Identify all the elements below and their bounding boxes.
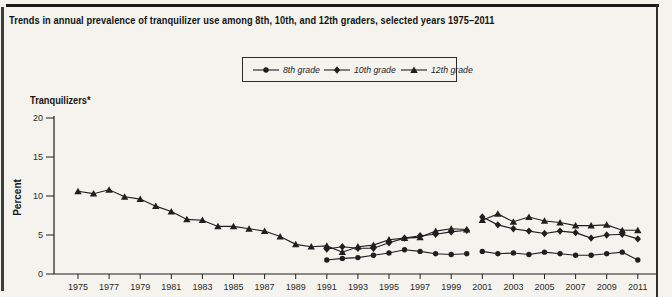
y-tick-label: 15 [33, 152, 43, 162]
page-border-top [6, 4, 659, 7]
series-12th-grade [74, 186, 641, 255]
y-tick-label: 10 [33, 191, 43, 201]
legend-item-8th-grade: 8th grade [252, 64, 323, 75]
legend-item-10th-grade: 10th grade [323, 64, 399, 75]
x-tick-label: 2011 [628, 282, 647, 292]
x-tick-label: 1977 [99, 282, 119, 292]
x-tick-label: 1987 [255, 282, 275, 292]
page-border-right [656, 5, 658, 297]
x-tick-label: 1997 [410, 282, 430, 292]
page-border-left [1, 7, 4, 291]
chart-title: Trends in annual prevalence of tranquili… [9, 14, 495, 26]
x-tick-label: 2003 [503, 282, 523, 292]
x-tick-label: 1991 [317, 282, 337, 292]
y-axis-title: Percent [12, 167, 23, 229]
x-tick-label: 1999 [441, 282, 461, 292]
line-chart: 0510152019751977197919811983198519871989… [0, 0, 672, 297]
x-tick-label: 1995 [379, 282, 399, 292]
x-tick-label: 1975 [68, 282, 88, 292]
x-tick-label: 1993 [348, 282, 368, 292]
x-tick-label: 2001 [472, 282, 492, 292]
x-tick-label: 1981 [161, 282, 181, 292]
y-tick-label: 0 [38, 269, 43, 279]
x-tick-label: 2007 [566, 282, 586, 292]
legend-label-12th-grade: 12th grade [431, 64, 473, 75]
y-tick-label: 20 [33, 113, 43, 123]
x-tick-label: 1985 [223, 282, 243, 292]
x-tick-label: 2005 [534, 282, 554, 292]
diamond-marker-icon [323, 65, 351, 75]
x-tick-label: 1983 [192, 282, 212, 292]
axes [54, 116, 656, 274]
y-tick-label: 5 [38, 230, 43, 240]
legend-item-12th-grade: 12th grade [400, 64, 476, 75]
triangle-marker-icon [400, 65, 428, 75]
x-tick-label: 2009 [597, 282, 617, 292]
x-tick-label: 1979 [130, 282, 150, 292]
circle-marker-icon [252, 65, 280, 75]
y-axis-ticks: 05101520 [33, 113, 54, 279]
legend-box: 8th grade 10th grade 12th grade [242, 57, 457, 82]
legend-label-8th-grade: 8th grade [283, 64, 320, 75]
legend-label-10th-grade: 10th grade [354, 64, 396, 75]
x-axis-ticks: 1975197719791981198319851987198919911993… [68, 274, 647, 292]
substance-label: Tranquilizers* [30, 94, 91, 106]
x-tick-label: 1989 [286, 282, 306, 292]
